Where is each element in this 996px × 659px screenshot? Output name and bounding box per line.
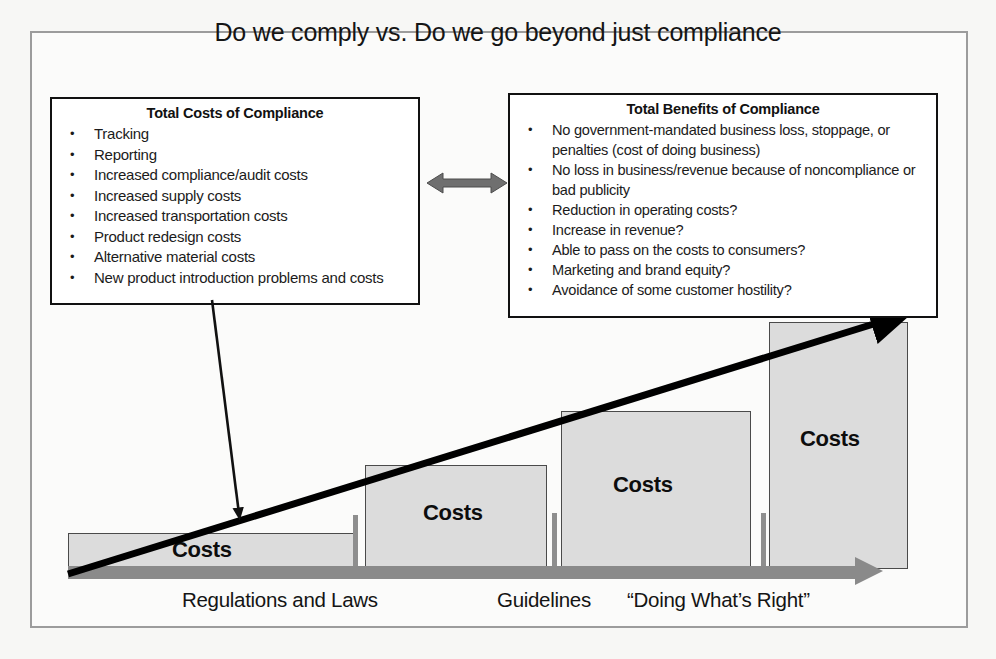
list-item: •New product introduction problems and c… [64, 268, 410, 289]
list-item: •Avoidance of some customer hostility? [522, 280, 928, 300]
list-item-label: Increased compliance/audit costs [94, 166, 308, 183]
bullet-icon: • [528, 280, 532, 301]
list-item-label: Product redesign costs [94, 228, 241, 245]
list-item-label: Tracking [94, 125, 149, 142]
list-item: •Increased compliance/audit costs [64, 165, 410, 186]
list-item: •Alternative material costs [64, 247, 410, 268]
list-item: •Marketing and brand equity? [522, 260, 928, 280]
bullet-icon: • [70, 247, 74, 268]
list-item: •Increased transportation costs [64, 206, 410, 227]
callout-total-benefits-of-compliance: Total Benefits of Compliance •No governm… [508, 93, 938, 318]
callout-benefits-title: Total Benefits of Compliance [510, 101, 936, 117]
list-item-label: New product introduction problems and co… [94, 269, 383, 286]
slide-canvas: Do we comply vs. Do we go beyond just co… [0, 0, 996, 659]
list-item: •Reduction in operating costs? [522, 200, 928, 220]
list-item: •Tracking [64, 124, 410, 145]
list-item: •No government-mandated business loss, s… [522, 120, 928, 160]
list-item: •Product redesign costs [64, 227, 410, 248]
axis-label-guidelines: Guidelines [497, 588, 591, 612]
list-item-label: Alternative material costs [94, 248, 255, 265]
bullet-icon: • [528, 220, 532, 241]
bullet-icon: • [528, 260, 532, 281]
list-item-label: Increased transportation costs [94, 207, 287, 224]
bullet-icon: • [70, 124, 74, 145]
list-item-label: Increased supply costs [94, 187, 241, 204]
list-item: •No loss in business/revenue because of … [522, 160, 928, 200]
double-headed-arrow-icon [425, 170, 509, 196]
list-item-label: Avoidance of some customer hostility? [552, 282, 792, 298]
list-item: •Increased supply costs [64, 186, 410, 207]
callout-total-costs-of-compliance: Total Costs of Compliance •Tracking •Rep… [50, 97, 420, 305]
list-item-label: No loss in business/revenue because of n… [552, 162, 915, 198]
callout-benefits-list: •No government-mandated business loss, s… [510, 120, 936, 300]
axis-label-regulations-and-laws: Regulations and Laws [182, 588, 378, 612]
list-item-label: Reduction in operating costs? [552, 202, 737, 218]
list-item: •Reporting [64, 145, 410, 166]
bullet-icon: • [528, 120, 532, 141]
list-item-label: Marketing and brand equity? [552, 262, 730, 278]
callout-costs-title: Total Costs of Compliance [52, 105, 418, 121]
bullet-icon: • [70, 165, 74, 186]
list-item: •Able to pass on the costs to consumers? [522, 240, 928, 260]
list-item: •Increase in revenue? [522, 220, 928, 240]
bullet-icon: • [528, 240, 532, 261]
bullet-icon: • [528, 200, 532, 221]
bullet-icon: • [70, 227, 74, 248]
bullet-icon: • [70, 145, 74, 166]
callout-costs-list: •Tracking •Reporting •Increased complian… [52, 124, 418, 288]
list-item-label: Increase in revenue? [552, 222, 683, 238]
bullet-icon: • [528, 160, 532, 181]
bullet-icon: • [70, 206, 74, 227]
axis-label-doing-whats-right: “Doing What’s Right” [627, 588, 810, 612]
bullet-icon: • [70, 186, 74, 207]
pointer-arrow-icon [195, 296, 265, 526]
list-item-label: Reporting [94, 146, 157, 163]
list-item-label: No government-mandated business loss, st… [552, 122, 890, 158]
list-item-label: Able to pass on the costs to consumers? [552, 242, 805, 258]
bullet-icon: • [70, 268, 74, 289]
